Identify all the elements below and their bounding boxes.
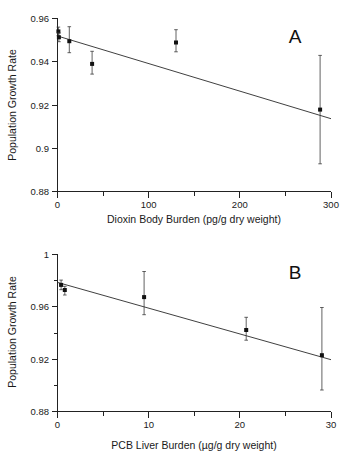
- panel-b-svg: 1 0.96 0.92 0.88 0 10 20: [0, 232, 362, 465]
- y-tick-label: 0.96: [31, 301, 50, 312]
- figure-container: 0.96 0.94 0.92 0.9 0.88 0 100 200 3: [0, 0, 362, 465]
- panel-letter-a: A: [289, 26, 302, 47]
- x-tick-label: 20: [235, 419, 246, 430]
- y-tick-label: 0.92: [31, 100, 50, 111]
- panel-letter-b: B: [289, 262, 302, 283]
- chart-panel-b: 1 0.96 0.92 0.88 0 10 20: [0, 232, 362, 465]
- y-ticks-b: 1 0.96 0.92 0.88: [31, 249, 58, 417]
- data-point: [244, 317, 248, 340]
- y-axis-title-a: Population Growth Rate: [6, 49, 18, 161]
- x-tick-label: 30: [326, 419, 337, 430]
- data-point: [142, 272, 146, 315]
- x-axis-title-b: PCB Liver Burden (µg/g dry weight): [111, 439, 276, 451]
- x-ticks-b: 0 10 20 30: [55, 412, 336, 430]
- y-ticks-a: 0.96 0.94 0.92 0.9 0.88: [31, 13, 58, 197]
- y-tick-label: 0.88: [31, 406, 50, 417]
- y-tick-label: 0.88: [31, 186, 50, 197]
- y-axis-title-b: Population Growth Rate: [6, 276, 18, 388]
- data-series-b: [59, 272, 324, 391]
- regression-line-b: [58, 282, 332, 359]
- x-tick-label: 0: [55, 419, 60, 430]
- data-point: [174, 30, 178, 52]
- x-tick-label: 10: [143, 419, 154, 430]
- data-point: [67, 27, 71, 53]
- data-point: [59, 280, 63, 290]
- data-point: [318, 55, 322, 163]
- y-tick-label: 0.94: [31, 56, 50, 67]
- regression-line-a: [58, 36, 332, 119]
- y-tick-label: 0.92: [31, 354, 50, 365]
- x-tick-label: 100: [141, 199, 157, 210]
- chart-panel-a: 0.96 0.94 0.92 0.9 0.88 0 100 200 3: [0, 0, 362, 232]
- y-tick-label: 0.96: [31, 13, 50, 24]
- x-axis-title-a: Dioxin Body Burden (pg/g dry weight): [107, 213, 281, 225]
- data-point: [320, 308, 324, 391]
- x-tick-label: 200: [232, 199, 248, 210]
- panel-a-svg: 0.96 0.94 0.92 0.9 0.88 0 100 200 3: [0, 0, 362, 232]
- data-point: [90, 51, 94, 74]
- data-point: [63, 286, 67, 295]
- x-ticks-a: 0 100 200 300: [55, 192, 339, 210]
- y-tick-label: 0.9: [36, 143, 49, 154]
- x-tick-label: 300: [323, 199, 339, 210]
- y-tick-label: 1: [44, 249, 49, 260]
- x-tick-label: 0: [55, 199, 60, 210]
